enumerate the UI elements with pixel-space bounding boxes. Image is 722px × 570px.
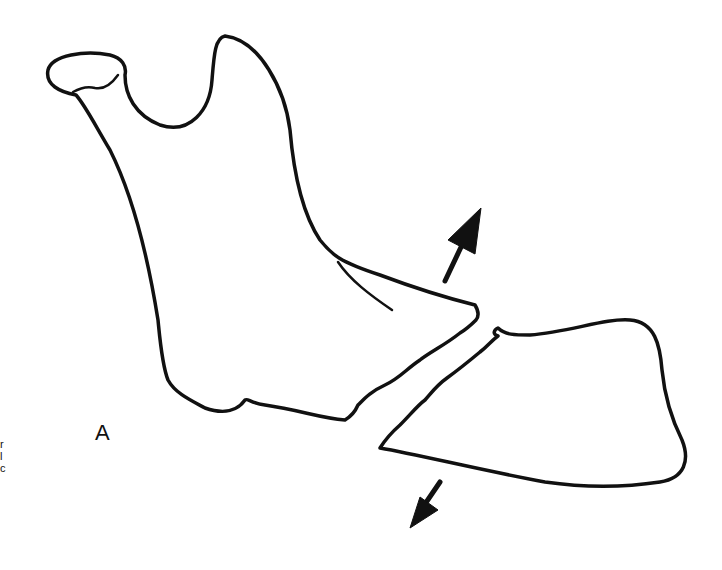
arrow-down-icon bbox=[410, 482, 440, 528]
fractured-mandible-drawing bbox=[0, 0, 722, 570]
condyle-inner-line bbox=[73, 75, 118, 92]
edge-text-line: l bbox=[0, 450, 8, 462]
distal-fragment-outline bbox=[380, 320, 686, 486]
proximal-fragment-outline bbox=[48, 36, 479, 420]
edge-text: r l c bbox=[0, 438, 8, 474]
edge-text-line: r bbox=[0, 438, 8, 450]
arrow-up-icon bbox=[445, 208, 481, 281]
panel-label: A bbox=[95, 420, 110, 446]
edge-text-line: c bbox=[0, 462, 8, 474]
